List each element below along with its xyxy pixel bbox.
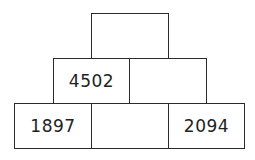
pyramid-bottom-middle-cell	[91, 103, 169, 149]
pyramid-bottom-left-cell: 1897	[14, 103, 92, 149]
pyramid-bottom-right-cell: 2094	[168, 103, 245, 149]
pyramid-middle-right-cell	[129, 58, 207, 104]
pyramid-top-cell	[91, 13, 169, 59]
pyramid-middle-left-cell: 4502	[53, 58, 130, 104]
